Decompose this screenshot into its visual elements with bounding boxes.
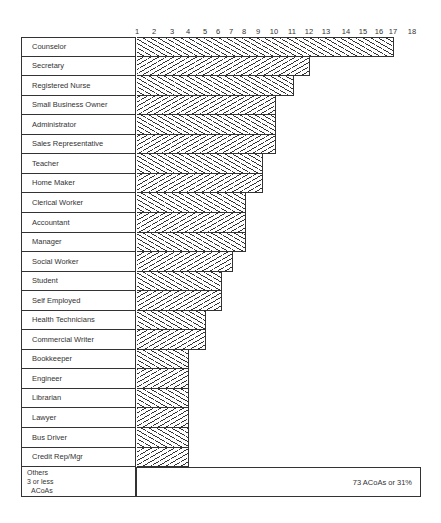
category-label: Lawyer bbox=[21, 408, 136, 428]
bar bbox=[137, 272, 222, 291]
bar bbox=[137, 428, 189, 448]
x-tick-label: 1 bbox=[135, 27, 139, 36]
x-tick-label: 2 bbox=[152, 27, 156, 36]
category-label: Self Employed bbox=[21, 291, 136, 311]
category-label: Teacher bbox=[21, 154, 136, 174]
category-label: Small Business Owner bbox=[21, 96, 136, 115]
bar-row: Administrator bbox=[21, 115, 275, 135]
bar-row: Engineer bbox=[21, 369, 188, 389]
bar bbox=[137, 213, 246, 233]
bar bbox=[137, 369, 189, 389]
category-label: Commercial Writer bbox=[21, 330, 136, 350]
bar-row: Credit Rep/Mgr bbox=[21, 448, 188, 467]
bar-row: Student bbox=[21, 272, 221, 291]
bar-row: Self Employed bbox=[21, 291, 221, 311]
bar-row: Small Business Owner bbox=[21, 96, 275, 115]
x-tick-label: 15 bbox=[359, 27, 367, 36]
bar bbox=[137, 37, 394, 57]
bar-row: Health Technicians bbox=[21, 311, 205, 330]
bar bbox=[137, 174, 263, 193]
bar-row: Manager bbox=[21, 233, 245, 252]
x-tick-label: 17 bbox=[389, 27, 397, 36]
category-label: Sales Representative bbox=[21, 135, 136, 154]
bar bbox=[137, 135, 276, 154]
bar bbox=[137, 330, 206, 350]
x-tick-label: 14 bbox=[342, 27, 350, 36]
others-label-line-3: ACoAs bbox=[27, 486, 135, 495]
bar bbox=[137, 193, 246, 213]
x-tick-label: 13 bbox=[322, 27, 330, 36]
category-label: Secretary bbox=[21, 57, 136, 76]
bar-row: Home Maker bbox=[21, 174, 262, 193]
x-tick-label: 4 bbox=[186, 27, 190, 36]
bar-row: Bus Driver bbox=[21, 428, 188, 448]
x-tick-label: 3 bbox=[170, 27, 174, 36]
bar-row: Commercial Writer bbox=[21, 330, 205, 350]
bar-row: Social Worker bbox=[21, 252, 232, 272]
category-label: Bus Driver bbox=[21, 428, 136, 448]
others-box: 73 ACoAs or 31% bbox=[136, 467, 421, 497]
bar bbox=[137, 311, 206, 330]
bar bbox=[137, 448, 189, 467]
category-label: Librarian bbox=[21, 389, 136, 408]
bar-row: Teacher bbox=[21, 154, 262, 174]
bar bbox=[137, 252, 233, 272]
bar-row: Registered Nurse bbox=[21, 76, 293, 96]
bar bbox=[137, 76, 294, 96]
category-label: Counselor bbox=[21, 37, 136, 57]
x-tick-label: 9 bbox=[256, 27, 260, 36]
x-tick-label: 7 bbox=[229, 27, 233, 36]
bar-row: Counselor bbox=[21, 37, 393, 57]
bar bbox=[137, 57, 310, 76]
category-label: Accountant bbox=[21, 213, 136, 233]
x-tick-label: 11 bbox=[288, 27, 296, 36]
x-tick-label: 6 bbox=[216, 27, 220, 36]
category-label: Credit Rep/Mgr bbox=[21, 448, 136, 467]
category-label: Engineer bbox=[21, 369, 136, 389]
bar bbox=[137, 350, 189, 369]
bar bbox=[137, 408, 189, 428]
others-label: Others 3 or less ACoAs bbox=[21, 467, 136, 497]
category-label: Manager bbox=[21, 233, 136, 252]
category-label: Social Worker bbox=[21, 252, 136, 272]
bar bbox=[137, 389, 189, 408]
x-tick-label: 10 bbox=[270, 27, 278, 36]
category-label: Bookkeeper bbox=[21, 350, 136, 369]
bar bbox=[137, 291, 222, 311]
category-label: Home Maker bbox=[21, 174, 136, 193]
bar-row: Secretary bbox=[21, 57, 309, 76]
bar bbox=[137, 154, 263, 174]
category-label: Clerical Worker bbox=[21, 193, 136, 213]
bar-row: Lawyer bbox=[21, 408, 188, 428]
x-tick-label: 5 bbox=[203, 27, 207, 36]
bar bbox=[137, 96, 276, 115]
category-label: Health Technicians bbox=[21, 311, 136, 330]
others-label-line-1: Others bbox=[27, 468, 135, 477]
bar-row: Sales Representative bbox=[21, 135, 275, 154]
x-tick-label: 18 bbox=[408, 27, 416, 36]
category-label: Student bbox=[21, 272, 136, 291]
bar-row: Accountant bbox=[21, 213, 245, 233]
x-tick-label: 12 bbox=[305, 27, 313, 36]
occupation-bar-chart: 123456789101112131415161718 CounselorSec… bbox=[0, 0, 441, 523]
bar bbox=[137, 115, 276, 135]
bar-row: Clerical Worker bbox=[21, 193, 245, 213]
x-tick-label: 8 bbox=[242, 27, 246, 36]
category-label: Administrator bbox=[21, 115, 136, 135]
x-tick-label: 16 bbox=[375, 27, 383, 36]
others-annotation: 73 ACoAs or 31% bbox=[353, 478, 412, 487]
others-row: Others 3 or less ACoAs 73 ACoAs or 31% bbox=[21, 467, 421, 497]
category-label: Registered Nurse bbox=[21, 76, 136, 96]
bar-row: Bookkeeper bbox=[21, 350, 188, 369]
bar-row: Librarian bbox=[21, 389, 188, 408]
others-label-line-2: 3 or less bbox=[27, 477, 135, 486]
bar bbox=[137, 233, 246, 252]
